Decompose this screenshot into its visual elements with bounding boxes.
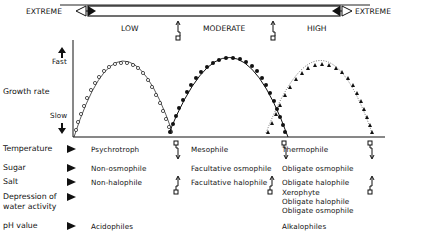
moderate-temperature: Mesophile	[191, 145, 228, 154]
curve-moderate	[168, 56, 288, 137]
factor-depression: Depression of	[3, 192, 57, 201]
high-obligate-osmophile: Obligate osmophile	[282, 206, 354, 215]
high-temperature: Thermophile	[282, 145, 328, 154]
factor-temperature: Temperature	[3, 144, 52, 153]
boundary-arrow-down-icon	[174, 141, 180, 159]
boundary-arrow-up-icon	[271, 21, 275, 40]
pointer-icon	[67, 222, 76, 230]
pointer-icon	[67, 164, 76, 172]
boundary-arrow-up-icon	[174, 176, 180, 194]
y-axis	[58, 40, 385, 137]
extreme-right-label: EXTREME	[355, 7, 391, 16]
axis-slow-label: Slow	[50, 111, 67, 120]
level-moderate: MODERATE	[203, 24, 245, 33]
high-salt: Obligate halophile	[282, 178, 349, 187]
boundary-arrow-up-icon	[268, 176, 274, 194]
axis-fast-label: Fast	[52, 57, 67, 66]
factor-ph: pH value	[3, 221, 38, 230]
boundary-arrow-up-icon	[176, 21, 180, 40]
pointer-icon	[67, 145, 76, 153]
high-obligate-halophile: Obligate halophile	[282, 197, 349, 206]
pointer-icon	[67, 178, 76, 186]
pointer-icon	[67, 193, 76, 201]
factor-salt: Salt	[3, 177, 18, 186]
high-xerophyte: Xerophyte	[282, 188, 320, 197]
boundary-arrow-down-icon	[368, 141, 374, 159]
row-pointers	[67, 145, 76, 230]
high-ph: Alkalophiles	[282, 222, 326, 231]
level-high: HIGH	[307, 24, 327, 33]
low-temperature: Psychrotroph	[91, 145, 139, 154]
high-sugar: Obligate osmophile	[282, 164, 354, 173]
low-salt: Non-halophile	[91, 178, 142, 187]
extreme-left-label: EXTREME	[26, 7, 62, 16]
low-sugar: Non-osmophile	[91, 164, 146, 173]
moderate-salt: Facultative halophile	[191, 178, 267, 187]
arrow-down-icon	[58, 123, 66, 134]
curve-low	[74, 61, 173, 137]
axis-title: Growth rate	[3, 87, 50, 96]
moderate-sugar: Facultative osmophile	[191, 164, 272, 173]
factor-sugar: Sugar	[3, 163, 26, 172]
factor-water-activity: water activity	[3, 202, 56, 211]
level-low: LOW	[121, 24, 138, 33]
low-ph: Acidophiles	[91, 222, 133, 231]
scale-bar	[60, 5, 370, 16]
boundary-arrow-up-icon	[368, 176, 374, 194]
